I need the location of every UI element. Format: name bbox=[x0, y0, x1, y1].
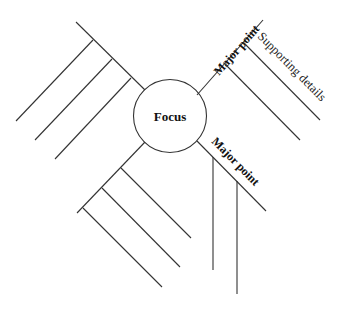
detail-line-upper-right-2 bbox=[224, 63, 300, 140]
major-line-upper-left bbox=[76, 22, 145, 90]
detail-line-upper-left-1 bbox=[16, 40, 93, 121]
detail-label-upper-right-1: Supporting details bbox=[255, 29, 329, 104]
detail-line-upper-left-3 bbox=[55, 78, 131, 159]
detail-line-upper-left-2 bbox=[35, 59, 112, 140]
detail-line-lower-left-3 bbox=[83, 208, 162, 287]
focus-node: Focus bbox=[134, 80, 207, 153]
branch-lower-left bbox=[77, 142, 191, 287]
branch-upper-left bbox=[16, 22, 145, 159]
major-line-lower-left bbox=[77, 142, 145, 213]
detail-line-lower-left-1 bbox=[121, 168, 191, 238]
branch-lower-right: Major point bbox=[197, 134, 266, 294]
focus-label: Focus bbox=[154, 109, 187, 124]
spider-map-diagram: Focus Major point Supporting details Maj… bbox=[0, 0, 339, 309]
major-label-upper-right: Major point bbox=[211, 22, 263, 78]
branch-upper-right: Major point Supporting details bbox=[197, 20, 329, 140]
detail-line-lower-left-2 bbox=[102, 188, 180, 267]
